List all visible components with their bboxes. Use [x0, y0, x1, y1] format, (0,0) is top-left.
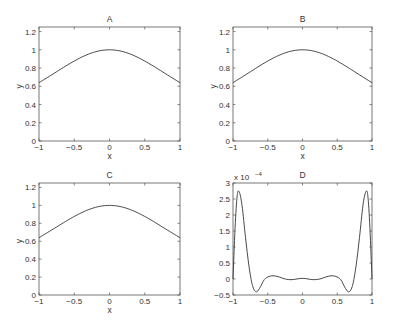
chart-title: A: [107, 14, 113, 24]
y-tick-label: 0: [32, 291, 37, 300]
y-tick-label: 0.4: [219, 101, 231, 110]
y-tick-label: 0.8: [219, 64, 231, 73]
data-curve: [233, 50, 372, 83]
panel-b: −1−0.500.5100.20.40.60.811.2Bxy: [208, 14, 375, 161]
data-curve: [233, 191, 372, 292]
x-axis-label: x: [300, 151, 305, 161]
x-tick-label: 0: [300, 297, 305, 306]
y-tick-label: 0.6: [219, 82, 231, 91]
x-tick-label: 0.5: [332, 143, 344, 152]
y-tick-label: 0: [226, 275, 231, 284]
y-tick-label: 0: [226, 137, 231, 146]
y-tick-label: 3: [226, 179, 231, 188]
y-tick-label: −0.5: [214, 291, 230, 300]
x-tick-label: 1: [370, 297, 375, 306]
y-tick-label: 1.2: [25, 28, 37, 37]
x-axis-label: x: [107, 305, 112, 315]
y-tick-label: 0: [32, 137, 37, 146]
x-tick-label: −0.5: [260, 143, 276, 152]
data-curve: [39, 205, 180, 237]
x-tick-label: 1: [370, 143, 375, 152]
y-tick-label: 1.2: [219, 28, 231, 37]
y-tick-label: 0.6: [25, 82, 37, 91]
plot-frame: [39, 183, 180, 295]
y-axis-label: y: [14, 238, 24, 243]
plot-frame: [39, 27, 180, 141]
x-tick-label: −0.5: [66, 143, 82, 152]
y-tick-label: 0.2: [25, 273, 37, 282]
x-tick-label: 1: [178, 143, 183, 152]
x-tick-label: 1: [178, 297, 183, 306]
panel-a: −1−0.500.5100.20.40.60.811.2Axy: [14, 14, 183, 161]
y-tick-label: 0.4: [25, 255, 37, 264]
y-tick-label: 0.2: [25, 119, 37, 128]
x-axis-label: x: [107, 151, 112, 161]
scale-multiplier: x 10: [234, 173, 250, 182]
y-tick-label: 0.8: [25, 64, 37, 73]
y-tick-label: 0.8: [25, 219, 37, 228]
x-tick-label: 0.5: [139, 297, 151, 306]
panel-c: −1−0.500.5100.20.40.60.811.2Cxy: [14, 170, 183, 315]
y-tick-label: 0.4: [25, 101, 37, 110]
y-axis-label: y: [208, 83, 218, 88]
x-tick-label: 0.5: [139, 143, 151, 152]
y-tick-label: 2.5: [219, 195, 231, 204]
y-tick-label: 0.2: [219, 119, 231, 128]
chart-title: C: [106, 170, 112, 180]
x-tick-label: −0.5: [66, 297, 82, 306]
y-tick-label: 1: [32, 201, 37, 210]
figure: −1−0.500.5100.20.40.60.811.2Axy−1−0.500.…: [0, 0, 396, 325]
y-tick-label: 1: [226, 243, 231, 252]
y-tick-label: 1.5: [219, 227, 231, 236]
data-curve: [39, 50, 180, 83]
plot-frame: [233, 27, 372, 141]
y-axis-label: y: [14, 83, 24, 88]
x-tick-label: 0.5: [332, 297, 344, 306]
y-tick-label: 0.5: [219, 259, 231, 268]
x-tick-label: −0.5: [260, 297, 276, 306]
chart-title: B: [300, 14, 306, 24]
y-tick-label: 1: [226, 46, 231, 55]
y-tick-label: 1: [32, 46, 37, 55]
panel-d: −1−0.500.51−0.500.511.522.53Dx 10−4: [214, 170, 375, 306]
y-tick-label: 1.2: [25, 183, 37, 192]
y-tick-label: 2: [226, 211, 231, 220]
scale-exponent: −4: [255, 171, 263, 177]
chart-title: D: [299, 170, 305, 180]
y-tick-label: 0.6: [25, 237, 37, 246]
